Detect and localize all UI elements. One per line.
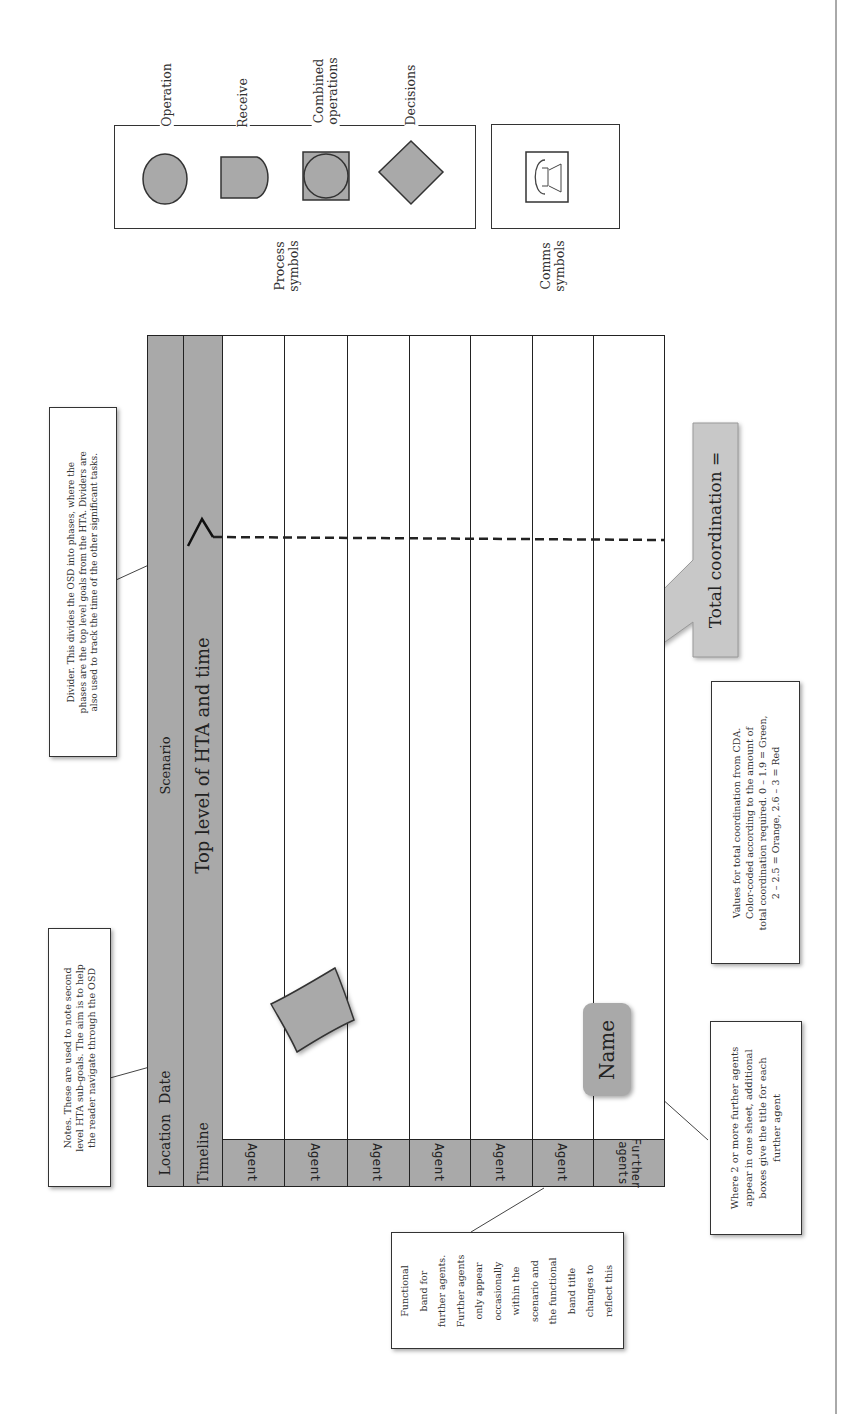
legend-item-decisions: Decisions — [396, 56, 426, 134]
name-label: Name — [595, 1019, 619, 1079]
values-note-text: Values for total coordination from CDA. … — [730, 715, 782, 930]
header-scenario: Scenario — [148, 725, 183, 805]
notes-note-box: Notes. These are used to note second lev… — [48, 928, 111, 1187]
legend-label: Decisions — [404, 62, 418, 129]
process-symbols-caption: Process symbols — [262, 230, 312, 302]
legend-item-combined-operations: Combined operations — [303, 48, 349, 134]
agent-label-4: Agent — [409, 1139, 470, 1186]
agent-label-1: Agent — [222, 1139, 284, 1186]
notes-note-text: Notes. These are used to note second lev… — [62, 964, 98, 1152]
lane-line — [409, 336, 410, 1187]
functional-band-leader-line — [471, 1188, 544, 1232]
agent-label-6: Agent — [532, 1139, 593, 1186]
functional-band-note-box: Functional band for further agents. Furt… — [391, 1232, 624, 1349]
comms-symbols-caption: Comms symbols — [528, 230, 578, 302]
process-symbols-label: Process symbols — [273, 237, 301, 294]
header-top-level: Top level of HTA and time — [183, 620, 222, 890]
divider-note-box: Divider. This divides the OSD into phase… — [49, 407, 117, 757]
further-agents-note-box: Where 2 or more further agents appear in… — [710, 1021, 802, 1235]
location-label: Location — [158, 1114, 174, 1175]
legend-label: Combined operations — [312, 54, 340, 127]
band-divider-line — [222, 336, 223, 1187]
lane-line — [532, 336, 533, 1187]
legend-item-operation: Operation — [152, 55, 182, 135]
comms-symbols-label: Comms symbols — [539, 237, 567, 294]
date-label: Date — [158, 1071, 174, 1104]
agent-label-2: Agent — [284, 1139, 347, 1186]
timeline-label: Timeline — [195, 1122, 211, 1184]
lane-line — [347, 336, 348, 1187]
values-note-box: Values for total coordination from CDA. … — [711, 681, 800, 964]
further-agents-label: Further agents — [593, 1139, 665, 1186]
agent-label-3: Agent — [347, 1139, 409, 1186]
process-symbols-box — [114, 125, 476, 229]
functional-band-note-text: Functional band for further agents. Furt… — [397, 1254, 619, 1327]
total-coordination-label: Total coordination = — [706, 452, 726, 629]
lane-line — [470, 336, 471, 1187]
divider-note-text: Divider. This divides the OSD into phase… — [66, 451, 101, 713]
agent-label-5: Agent — [470, 1139, 532, 1186]
further-agent-name-box: Name — [583, 1003, 631, 1096]
scenario-label: Scenario — [158, 736, 173, 794]
top-level-label: Top level of HTA and time — [192, 637, 213, 873]
total-coordination-callout: Total coordination = — [693, 423, 738, 657]
legend-item-receive: Receive — [228, 72, 258, 134]
legend-label: Operation — [160, 60, 174, 130]
header-location-date: Location Date — [148, 1060, 183, 1186]
lane-line — [284, 336, 285, 1187]
legend-label: Receive — [236, 75, 250, 131]
header-timeline: Timeline — [183, 1120, 222, 1186]
comms-symbols-box — [491, 124, 620, 229]
further-agents-note-text: Where 2 or more further agents appear in… — [728, 1047, 784, 1210]
